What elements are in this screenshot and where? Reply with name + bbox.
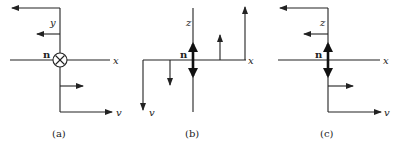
v-label: v: [149, 107, 155, 118]
caption-b: (b): [185, 128, 199, 139]
caption-a: (a): [52, 128, 66, 139]
panel-a: y n x v (a): [10, 8, 122, 139]
into-page-normal-icon: [53, 53, 67, 67]
normal-label: n: [315, 49, 323, 60]
x-axis-label: x: [383, 55, 389, 66]
normal-label: n: [180, 49, 188, 60]
x-axis-label: x: [113, 55, 119, 66]
z-axis-label: z: [319, 17, 326, 28]
caption-c: (c): [320, 128, 334, 139]
normal-label: n: [43, 49, 51, 60]
x-axis-label: x: [248, 55, 254, 66]
shear-flow-diagram: y n x v (a) z n x v (b) z n: [0, 0, 394, 149]
z-axis-label: z: [185, 17, 192, 28]
y-axis-label: y: [49, 17, 56, 28]
panel-c: z n x v (c): [278, 8, 390, 139]
panel-b: z n x v (b): [143, 7, 254, 139]
v-label: v: [116, 107, 122, 118]
v-label: v: [384, 107, 390, 118]
